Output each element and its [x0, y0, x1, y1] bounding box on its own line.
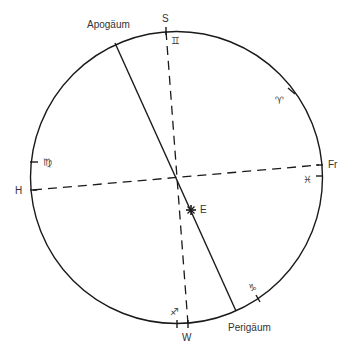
south-label: S: [162, 13, 169, 24]
virgo-icon: ♍: [43, 157, 52, 168]
gemini-icon: ♊: [171, 35, 180, 46]
fr-label: Fr: [328, 159, 338, 170]
west-label: W: [182, 332, 192, 343]
orbit-circle: [31, 32, 323, 324]
earth-label: E: [200, 204, 207, 215]
capricorn-icon: ♑: [248, 282, 257, 293]
earth-star-icon: [186, 205, 196, 215]
aries-icon: ♈: [275, 95, 284, 106]
sagittarius-icon: ♐: [170, 306, 179, 317]
perigee-label: Perigäum: [228, 322, 271, 333]
apogee-label: Apogäum: [87, 19, 130, 30]
eccentric-orbit-diagram: Apogäum Perigäum S W H Fr E ♊ ♈ ♍ ♓ ♑ ♐: [0, 0, 351, 354]
pisces-icon: ♓: [303, 174, 312, 185]
h-label: H: [15, 185, 22, 196]
